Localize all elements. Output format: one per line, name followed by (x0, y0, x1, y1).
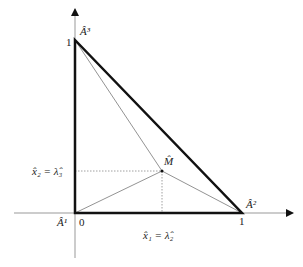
simplex-diagram (0, 0, 303, 267)
label-x2: x̂₂ = λ̂₃ (32, 166, 62, 177)
point-m (161, 170, 164, 173)
tick-x-one: 1 (239, 216, 245, 227)
label-a3: Â³ (80, 26, 90, 37)
m-to-a3 (75, 40, 162, 171)
label-x1: x̂₁ = λ̂₂ (143, 230, 173, 241)
label-a2: Â² (246, 199, 256, 210)
simplex-triangle (75, 40, 242, 213)
m-to-a2 (162, 171, 242, 213)
m-to-a1 (75, 171, 162, 213)
label-a1: Â¹ (57, 217, 67, 228)
tick-x-origin: 0 (79, 217, 85, 228)
label-m: M̂ (164, 156, 173, 167)
tick-y-one: 1 (66, 37, 72, 48)
